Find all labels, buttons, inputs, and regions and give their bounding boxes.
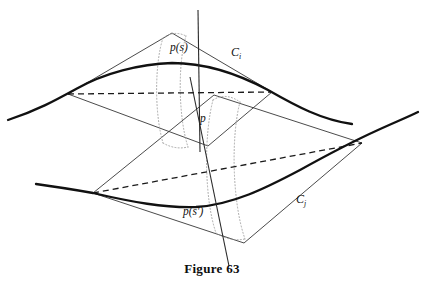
vertical-axis-line <box>198 10 200 152</box>
label-curve-c-j: Cj <box>296 193 306 207</box>
label-curve-c-i: Ci <box>231 46 241 60</box>
upper-dashed-chord <box>68 92 272 94</box>
label-point-p: p <box>200 113 206 125</box>
label-p-of-s-prime: p(s′) <box>183 206 203 218</box>
tube-upper-bottom-arc <box>163 143 188 148</box>
figure-63-illustration: p(s) Ci p p(s′) Cj Figure 63 <box>0 0 424 285</box>
lower-dashed-chord <box>93 143 362 193</box>
label-curve-c-j-base: C <box>296 192 304 206</box>
slanted-axis-line <box>190 77 229 266</box>
label-curve-c-i-base: C <box>231 45 239 59</box>
label-p-of-s: p(s) <box>170 42 188 54</box>
figure-drawing-canvas <box>0 0 424 285</box>
tube-lower-bottom-arc <box>216 233 245 240</box>
label-curve-c-i-subscript: i <box>239 52 241 61</box>
figure-caption: Figure 63 <box>0 261 424 277</box>
label-curve-c-j-subscript: j <box>304 199 306 208</box>
curve-c-j <box>36 112 418 207</box>
